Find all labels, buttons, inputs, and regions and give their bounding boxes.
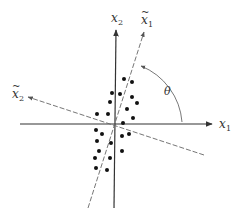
x2-axis bbox=[114, 30, 116, 208]
theta-arc bbox=[141, 66, 182, 122]
data-point bbox=[106, 112, 110, 116]
svg-text:x: x bbox=[219, 117, 226, 131]
svg-text:x: x bbox=[111, 11, 118, 25]
x2-tilde-label: ~ x 2 bbox=[12, 80, 24, 103]
data-point bbox=[120, 134, 124, 138]
data-point bbox=[108, 156, 112, 160]
data-point bbox=[93, 156, 97, 160]
data-point bbox=[130, 80, 134, 84]
data-point bbox=[108, 100, 112, 104]
svg-text:2: 2 bbox=[19, 94, 24, 103]
data-point bbox=[109, 141, 113, 145]
rotation-diagram: x 2 ~ x 1 ~ x 2 x 1 θ bbox=[0, 0, 239, 220]
data-point bbox=[95, 139, 99, 143]
svg-text:x: x bbox=[12, 87, 19, 101]
data-point bbox=[95, 112, 99, 116]
theta-label: θ bbox=[164, 85, 171, 98]
x1-label: x 1 bbox=[219, 117, 231, 133]
svg-text:2: 2 bbox=[118, 18, 123, 27]
data-point bbox=[130, 95, 134, 99]
data-point bbox=[121, 121, 125, 125]
data-point bbox=[122, 77, 126, 81]
data-point bbox=[94, 128, 98, 132]
x2-tilde-axis bbox=[28, 97, 204, 155]
data-point bbox=[135, 101, 139, 105]
data-point bbox=[105, 168, 109, 172]
data-point bbox=[127, 132, 131, 136]
x2-label: x 2 bbox=[111, 11, 123, 27]
data-point bbox=[131, 116, 135, 120]
data-point bbox=[94, 166, 98, 170]
svg-text:1: 1 bbox=[226, 124, 231, 133]
svg-text:1: 1 bbox=[148, 20, 153, 29]
data-point bbox=[120, 149, 124, 153]
x1-tilde-label: ~ x 1 bbox=[141, 6, 153, 29]
data-point bbox=[100, 132, 104, 136]
data-point bbox=[125, 107, 129, 111]
data-point bbox=[110, 91, 114, 95]
svg-text:x: x bbox=[141, 13, 148, 27]
data-point bbox=[118, 92, 122, 96]
data-point bbox=[97, 149, 101, 153]
